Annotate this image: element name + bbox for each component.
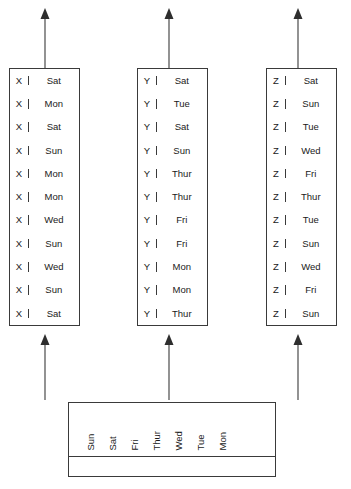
row-key: Y <box>138 122 157 132</box>
row-key: Y <box>138 99 157 109</box>
row-value: Sun <box>29 285 79 295</box>
table-row: Y Thur <box>138 185 207 208</box>
row-value: Thur <box>157 192 207 202</box>
source-label-thur: Thur <box>152 430 162 450</box>
table-row: Y Mon <box>138 278 207 301</box>
table-row: Y Sat <box>138 116 207 139</box>
row-key: Y <box>138 239 157 249</box>
row-value: Fri <box>157 239 207 249</box>
row-value: Fri <box>157 215 207 225</box>
source-label-mon: Mon <box>218 432 228 450</box>
table-row: X Wed <box>10 209 79 232</box>
source-label-sat: Sat <box>108 436 118 450</box>
row-key: Z <box>267 262 286 272</box>
table-row: Z Wed <box>267 139 336 162</box>
row-key: X <box>10 215 29 225</box>
row-key: Y <box>138 215 157 225</box>
table-row: Z Sat <box>267 69 336 92</box>
table-row: Y Thur <box>138 162 207 185</box>
table-row: Z Fri <box>267 162 336 185</box>
table-row: Y Thur <box>138 302 207 325</box>
row-value: Fri <box>286 285 336 295</box>
row-key: X <box>10 169 29 179</box>
table-row: Y Mon <box>138 255 207 278</box>
row-key: X <box>10 76 29 86</box>
table-row: Z Thur <box>267 185 336 208</box>
row-key: X <box>10 285 29 295</box>
row-key: Z <box>267 122 286 132</box>
row-value: Fri <box>286 169 336 179</box>
table-row: X Sat <box>10 69 79 92</box>
arrow-up-in-z <box>289 334 307 400</box>
table-row: Z Sun <box>267 232 336 255</box>
source-label-wed: Wed <box>174 431 184 450</box>
row-key: Y <box>138 262 157 272</box>
table-row: X Mon <box>10 185 79 208</box>
row-key: Y <box>138 309 157 319</box>
row-value: Sun <box>286 239 336 249</box>
row-value: Thur <box>157 309 207 319</box>
row-value: Wed <box>286 146 336 156</box>
row-value: Tue <box>286 215 336 225</box>
row-key: X <box>10 146 29 156</box>
source-label-sun: Sun <box>86 433 96 450</box>
row-value: Mon <box>29 169 79 179</box>
arrow-up-in-y <box>160 334 178 400</box>
row-key: Z <box>267 309 286 319</box>
table-row: Y Fri <box>138 209 207 232</box>
table-row: Y Tue <box>138 92 207 115</box>
arrow-up-out-y <box>160 8 178 70</box>
table-row: X Mon <box>10 162 79 185</box>
row-key: Y <box>138 192 157 202</box>
row-value: Sun <box>29 239 79 249</box>
row-value: Mon <box>29 192 79 202</box>
table-row: X Sun <box>10 278 79 301</box>
row-value: Thur <box>286 192 336 202</box>
row-key: X <box>10 122 29 132</box>
source-table-header-row: Sun Sat Fri Thur Wed Tue Mon <box>69 403 275 457</box>
table-row: X Wed <box>10 255 79 278</box>
table-row: X Sun <box>10 139 79 162</box>
row-value: Mon <box>157 285 207 295</box>
row-value: Wed <box>286 262 336 272</box>
row-key: X <box>10 99 29 109</box>
row-key: Z <box>267 146 286 156</box>
table-row: Y Fri <box>138 232 207 255</box>
table-row: Y Sat <box>138 69 207 92</box>
arrow-up-out-z <box>289 8 307 70</box>
row-key: Z <box>267 99 286 109</box>
row-key: X <box>10 239 29 249</box>
list-box-y: Y Sat Y Tue Y Sat Y Sun Y Thur Y Thur Y … <box>137 68 208 326</box>
table-row: X Mon <box>10 92 79 115</box>
diagram-canvas: X Sat X Mon X Sat X Sun X Mon X Mon X We… <box>0 0 351 489</box>
row-key: Z <box>267 239 286 249</box>
table-row: Z Wed <box>267 255 336 278</box>
row-value: Sat <box>157 76 207 86</box>
row-value: Sun <box>286 99 336 109</box>
row-value: Thur <box>157 169 207 179</box>
row-key: Z <box>267 192 286 202</box>
row-value: Sat <box>29 122 79 132</box>
table-row: Z Tue <box>267 209 336 232</box>
source-table-empty-row <box>69 457 275 476</box>
list-box-z: Z Sat Z Sun Z Tue Z Wed Z Fri Z Thur Z T… <box>266 68 337 326</box>
row-key: Y <box>138 169 157 179</box>
table-row: Z Sun <box>267 302 336 325</box>
row-value: Mon <box>29 99 79 109</box>
arrow-up-in-x <box>36 334 54 400</box>
row-key: Z <box>267 285 286 295</box>
arrow-up-out-x <box>36 8 54 70</box>
table-row: Z Tue <box>267 116 336 139</box>
row-key: Y <box>138 76 157 86</box>
row-value: Sat <box>29 309 79 319</box>
row-value: Sat <box>29 76 79 86</box>
table-row: Y Sun <box>138 139 207 162</box>
row-value: Sat <box>286 76 336 86</box>
row-value: Tue <box>157 99 207 109</box>
table-row: Z Sun <box>267 92 336 115</box>
row-value: Sun <box>286 309 336 319</box>
row-value: Wed <box>29 215 79 225</box>
row-value: Tue <box>286 122 336 132</box>
row-value: Mon <box>157 262 207 272</box>
row-key: X <box>10 192 29 202</box>
